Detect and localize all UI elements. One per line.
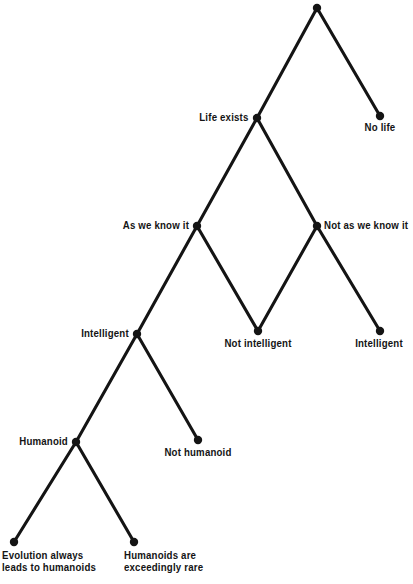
tree-node-root: [313, 4, 321, 12]
node-label-humanoid: Humanoid: [19, 436, 68, 448]
tree-edge-not-as-we-know-it-to-intelligent-right: [317, 226, 380, 331]
tree-node-intelligent-left: [133, 330, 141, 338]
tree-node-humanoids-are-exceedingly-rare: [130, 538, 138, 546]
tree-edge-as-we-know-it-to-intelligent-left: [137, 226, 197, 334]
node-label-evolution-always-leads-to-humanoids: Evolution always leads to humanoids: [2, 550, 96, 573]
tree-edge-not-as-we-know-it-to-not-intelligent: [258, 226, 317, 331]
tree-edge-intelligent-left-to-humanoid: [76, 334, 137, 442]
edge-layer: [14, 8, 380, 542]
tree-node-not-as-we-know-it: [313, 222, 321, 230]
node-label-intelligent-right: Intelligent: [30, 338, 413, 350]
tree-edge-life-exists-to-not-as-we-know-it: [257, 118, 317, 226]
tree-node-life-exists: [253, 114, 261, 122]
tree-edge-as-we-know-it-to-not-intelligent: [197, 226, 258, 331]
tree-node-not-humanoid: [194, 436, 202, 444]
tree-edge-intelligent-left-to-not-humanoid: [137, 334, 198, 440]
tree-edge-root-to-no-life: [317, 8, 380, 116]
node-layer: [10, 4, 384, 546]
tree-node-humanoid: [72, 438, 80, 446]
node-label-humanoids-are-exceedingly-rare: Humanoids are exceedingly rare: [124, 550, 203, 573]
tree-node-as-we-know-it: [193, 222, 201, 230]
tree-node-evolution-always-leads-to-humanoids: [10, 538, 18, 546]
node-label-not-humanoid: Not humanoid: [16, 447, 380, 459]
tree-node-intelligent-right: [376, 327, 384, 335]
node-label-no-life: No life: [30, 122, 413, 134]
tree-edge-life-exists-to-as-we-know-it: [197, 118, 257, 226]
tree-node-no-life: [376, 112, 384, 120]
node-label-as-we-know-it: As we know it: [123, 220, 189, 232]
tree-node-not-intelligent: [254, 327, 262, 335]
node-label-not-as-we-know-it: Not as we know it: [324, 220, 408, 232]
tree-edge-root-to-life-exists: [257, 8, 317, 118]
